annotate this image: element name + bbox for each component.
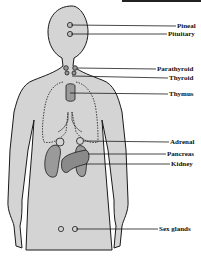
label-sex-glands: Sex glands [159, 225, 191, 233]
header-bar [122, 0, 201, 2]
label-adrenal: Adrenal [170, 138, 194, 146]
label-thyroid: Thyroid [169, 74, 193, 82]
adrenal-gland-left [56, 138, 64, 146]
parathyroid-leader [77, 68, 156, 69]
label-pancreas: Pancreas [167, 150, 194, 158]
label-kidney: Kidney [171, 160, 193, 168]
sex-gland-left [58, 226, 63, 231]
body-outline [8, 6, 128, 250]
parathyroid-gland-right [73, 66, 78, 71]
thymus-gland [66, 84, 75, 102]
endocrine-diagram: Pineal Pituitary Parathyroid Thyroid Thy… [0, 0, 201, 260]
label-pituitary: Pituitary [168, 30, 195, 38]
parathyroid-gland-left [64, 66, 69, 71]
thyroid-gland-right [72, 71, 76, 75]
label-parathyroid: Parathyroid [157, 65, 194, 73]
adrenal-gland-right [77, 138, 84, 145]
thyroid-gland-left [65, 71, 69, 75]
labels: Pineal Pituitary Parathyroid Thyroid Thy… [157, 22, 196, 233]
body-silhouette [8, 6, 128, 250]
label-thymus: Thymus [169, 90, 194, 98]
label-pineal: Pineal [177, 22, 196, 30]
